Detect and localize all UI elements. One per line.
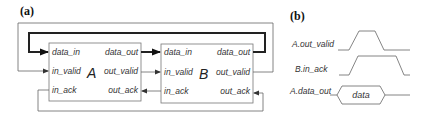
b-data-in-label: data_in: [164, 47, 192, 57]
block-a: data_in in_valid in_ack data_out out_val…: [49, 43, 141, 101]
b-in-ack-label: in_ack: [164, 86, 189, 96]
signal-a-out-valid-label: A.out_valid: [291, 39, 334, 49]
waveform-a-out-valid: [338, 31, 410, 50]
a-in-ack-label: in_ack: [52, 85, 77, 95]
a-in-valid-label: in_valid: [52, 66, 81, 76]
a-data-in-label: data_in: [52, 47, 80, 57]
bus-data-label: data: [352, 90, 370, 100]
block-a-name: A: [86, 65, 96, 81]
waveform-b-in-ack: [339, 56, 410, 75]
block-b: data_in in_valid in_ack data_out out_val…: [161, 44, 253, 103]
panel-a-label: (a): [20, 4, 34, 18]
panel-b-label: (b): [290, 9, 305, 23]
handshake-diagram: (a) data_in in_valid in_ack data_out out…: [0, 0, 425, 121]
signal-b-in-ack-label: B.in_ack: [295, 64, 328, 74]
a-out-ack-label: out_ack: [108, 85, 139, 95]
block-b-name: B: [199, 66, 208, 82]
b-in-valid-label: in_valid: [164, 67, 193, 77]
b-out-valid-label: out_valid: [216, 67, 250, 77]
a-data-out-label: data_out: [105, 47, 139, 57]
b-out-ack-label: out_ack: [220, 86, 251, 96]
b-data-out-label: data_out: [217, 47, 251, 57]
a-out-valid-label: out_valid: [104, 66, 138, 76]
signal-a-data-out-label: A.data_out: [289, 86, 332, 96]
